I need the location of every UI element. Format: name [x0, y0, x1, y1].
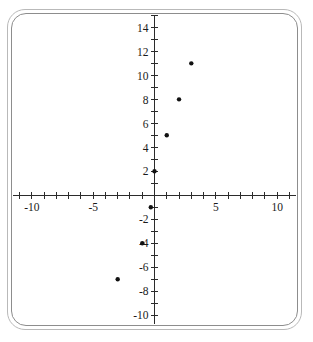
y-tick-label: 2 — [143, 165, 149, 177]
scatter-plot-svg: -10-5510 1412108642-2-4-6-8-10 — [11, 13, 298, 326]
x-tick-label: 5 — [213, 201, 219, 213]
y-tick-label: 12 — [137, 46, 149, 58]
y-tick-label: -2 — [139, 213, 149, 225]
x-tick-label: 10 — [271, 201, 283, 213]
data-point — [116, 277, 120, 281]
y-tick-label: 14 — [137, 22, 149, 34]
data-point — [152, 169, 156, 173]
x-tick-label: -10 — [24, 201, 40, 213]
y-tick-label: 10 — [137, 70, 149, 82]
data-point — [177, 97, 181, 101]
y-tick-label: 4 — [143, 142, 149, 154]
x-tick-label: -5 — [88, 201, 98, 213]
data-point — [189, 61, 193, 65]
data-point — [140, 241, 144, 245]
y-tick-label: 6 — [143, 118, 149, 130]
data-point — [149, 205, 153, 209]
y-axis-tick-labels: 1412108642-2-4-6-8-10 — [133, 22, 149, 322]
y-tick-label: -10 — [133, 309, 149, 321]
y-tick-label: 8 — [143, 94, 149, 106]
y-tick-label: -8 — [139, 285, 149, 297]
data-point — [165, 133, 169, 137]
chart-screenshot: -10-5510 1412108642-2-4-6-8-10 — [0, 0, 313, 342]
y-tick-label: -6 — [139, 261, 149, 273]
scatter-plot-canvas: -10-5510 1412108642-2-4-6-8-10 — [11, 13, 298, 326]
